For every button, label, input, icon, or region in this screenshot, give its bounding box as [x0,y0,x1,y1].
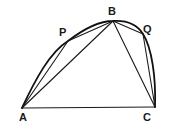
segment-AB [22,21,113,108]
segment-AC [22,107,155,108]
label-B: B [108,5,116,17]
label-P: P [59,26,66,38]
segment-AP [22,41,68,108]
label-C: C [143,111,151,123]
geometry-diagram: A P B Q C [0,0,172,129]
label-Q: Q [143,23,152,35]
arc-curve [22,21,155,108]
label-A: A [19,111,27,123]
segment-PB [68,21,113,41]
